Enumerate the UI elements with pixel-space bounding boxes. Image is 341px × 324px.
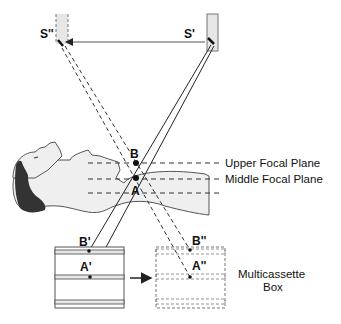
label-b-prime: B' <box>79 235 91 249</box>
label-point-a: A <box>131 184 140 198</box>
ray-s-double-prime-to-b-double-prime <box>65 46 190 250</box>
ray-s-prime-to-b-prime <box>89 45 211 251</box>
point-a-prime <box>88 275 92 279</box>
cassette-lower <box>55 300 124 304</box>
label-middle-focal-plane: Middle Focal Plane <box>225 173 323 185</box>
point-b-prime <box>87 249 91 253</box>
label-point-b: B <box>130 147 139 161</box>
label-b-double-prime: B'' <box>192 234 207 248</box>
point-a <box>133 175 139 181</box>
point-a-double-prime <box>188 275 192 279</box>
tomography-diagram: B A S'' S' Upper Focal Plane Middle Foca… <box>0 0 341 324</box>
tube-s-prime <box>207 14 218 51</box>
label-a-prime: A' <box>80 260 92 274</box>
label-upper-focal-plane: Upper Focal Plane <box>225 157 320 169</box>
label-a-double-prime: A'' <box>192 259 207 273</box>
label-multicassette: Multicassette <box>238 268 305 280</box>
tube-s-double-prime <box>56 14 68 46</box>
point-b-double-prime <box>188 248 192 252</box>
label-s-prime: S' <box>184 27 195 41</box>
label-box: Box <box>263 281 283 293</box>
label-s-double-prime: S'' <box>40 27 54 41</box>
cassette-lower-dashed <box>156 299 225 304</box>
